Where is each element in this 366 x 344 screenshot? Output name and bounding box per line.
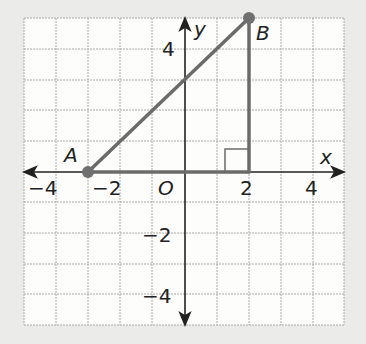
x-axis-label: x <box>319 145 332 169</box>
coordinate-plane: A B x y O −4 −2 2 4 4 −2 −4 <box>0 0 366 344</box>
y-tick-neg4: −4 <box>142 284 171 308</box>
point-B <box>243 12 255 24</box>
x-tick-neg4: −4 <box>28 176 57 200</box>
y-tick-neg2: −2 <box>142 223 171 247</box>
y-tick-4: 4 <box>162 37 175 61</box>
y-axis-label: y <box>193 17 207 41</box>
x-tick-2: 2 <box>240 176 253 200</box>
origin-label: O <box>158 176 174 200</box>
x-tick-4: 4 <box>305 176 318 200</box>
x-tick-neg2: −2 <box>92 176 121 200</box>
point-A-label: A <box>62 143 78 167</box>
point-B-label: B <box>256 21 270 45</box>
